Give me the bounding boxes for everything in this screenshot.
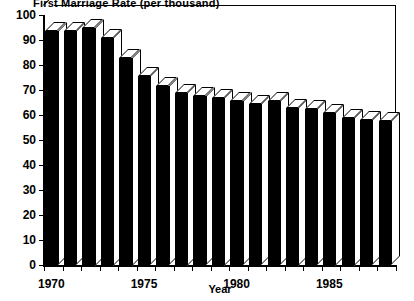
x-tick [137, 265, 138, 271]
bar-front-face [286, 108, 298, 266]
x-axis-title: Year [208, 283, 231, 295]
bar [138, 76, 150, 265]
y-tick-label: 100 [16, 8, 36, 22]
x-tick [81, 265, 82, 271]
bar-front-face [212, 98, 224, 266]
chart-container: First Marriage Rate (per thousand) 01020… [0, 0, 414, 301]
x-tick-label: 1970 [38, 277, 65, 291]
bar [379, 121, 391, 265]
bar-front-face [82, 28, 94, 266]
bar [82, 28, 94, 266]
y-tick [39, 240, 44, 241]
bar [342, 118, 354, 266]
bar-front-face [119, 58, 131, 266]
x-tick [63, 265, 64, 271]
bar [193, 96, 205, 265]
x-tick [44, 265, 45, 271]
bar [230, 101, 242, 265]
bar [101, 38, 113, 266]
bar-front-face [268, 101, 280, 265]
y-tick-label: 40 [23, 158, 36, 172]
bar [45, 31, 57, 265]
bar [156, 86, 168, 265]
x-tick [377, 265, 378, 271]
x-tick [266, 265, 267, 271]
bar [212, 98, 224, 266]
bar-front-face [323, 113, 335, 266]
x-tick [340, 265, 341, 271]
bar-side-face [391, 112, 400, 265]
bar-front-face [305, 109, 317, 265]
y-tick [39, 215, 44, 216]
bar [175, 93, 187, 266]
bar [268, 101, 280, 265]
x-tick [396, 265, 397, 271]
bar-front-face [230, 101, 242, 265]
y-tick-label: 0 [29, 258, 36, 272]
x-tick [155, 265, 156, 271]
bar [286, 108, 298, 266]
bar-front-face [64, 31, 76, 265]
x-axis-line [43, 265, 396, 267]
x-tick [285, 265, 286, 271]
bar [249, 104, 261, 265]
y-tick-label: 60 [23, 108, 36, 122]
x-tick [211, 265, 212, 271]
bar-front-face [156, 86, 168, 265]
x-tick [192, 265, 193, 271]
x-tick [248, 265, 249, 271]
x-tick-label: 1975 [131, 277, 158, 291]
bar-front-face [342, 118, 354, 266]
y-tick [39, 140, 44, 141]
y-tick [39, 90, 44, 91]
bar-front-face [138, 76, 150, 265]
x-tick [303, 265, 304, 271]
x-tick [229, 265, 230, 271]
y-tick-label: 10 [23, 233, 36, 247]
bar-front-face [360, 120, 372, 265]
y-tick-label: 50 [23, 133, 36, 147]
x-tick-label: 1985 [316, 277, 343, 291]
y-tick-label: 80 [23, 58, 36, 72]
y-tick [39, 115, 44, 116]
y-tick [39, 190, 44, 191]
y-tick-label: 30 [23, 183, 36, 197]
y-tick [39, 65, 44, 66]
bar-front-face [175, 93, 187, 266]
x-tick [118, 265, 119, 271]
bar-front-face [249, 104, 261, 265]
bar [360, 120, 372, 265]
bar-front-face [101, 38, 113, 266]
y-tick-label: 70 [23, 83, 36, 97]
bar [119, 58, 131, 266]
axis-3d-back-top [54, 5, 396, 6]
y-tick-label: 20 [23, 208, 36, 222]
bar [64, 31, 76, 265]
y-tick [39, 165, 44, 166]
y-tick [39, 40, 44, 41]
x-tick [359, 265, 360, 271]
x-tick [174, 265, 175, 271]
bar-front-face [379, 121, 391, 265]
x-tick [100, 265, 101, 271]
bar-front-face [45, 31, 57, 265]
bar [305, 109, 317, 265]
x-tick [322, 265, 323, 271]
bar [323, 113, 335, 266]
bar-front-face [193, 96, 205, 265]
y-tick [39, 15, 44, 16]
y-tick-label: 90 [23, 33, 36, 47]
plot-area: 0102030405060708090100 1970197519801985 [44, 15, 396, 265]
